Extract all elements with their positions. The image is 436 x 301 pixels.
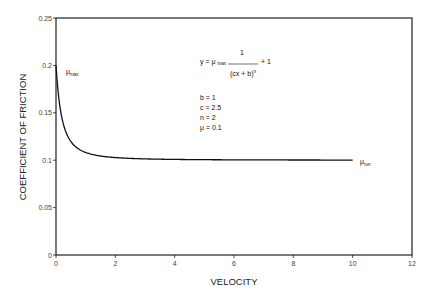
x-axis-label: VELOCITY: [211, 276, 259, 287]
x-tick-label: 10: [349, 260, 357, 267]
formula-denominator: (cx + b)n: [230, 69, 257, 78]
formula-numerator: 1: [240, 49, 244, 56]
y-tick-label: 0.25: [38, 15, 52, 22]
formula-plus-one: + 1: [261, 58, 271, 65]
param-c: c = 2.5: [200, 104, 221, 111]
axes: [56, 18, 412, 255]
formula: 1 y = μmax + 1 (cx + b)n: [200, 49, 271, 78]
x-tick-label: 8: [291, 260, 295, 267]
y-tick-label: 0.05: [38, 204, 52, 211]
y-tick-label: 0.2: [42, 62, 52, 69]
x-tick-label: 6: [232, 260, 236, 267]
y-tick-label: 0: [48, 252, 52, 259]
x-tick-label: 12: [408, 260, 416, 267]
param-n: n = 2: [200, 114, 216, 121]
x-tick-label: 2: [113, 260, 117, 267]
friction-chart: 024681012 00.050.10.150.20.25 VELOCITY C…: [0, 0, 436, 301]
series-line: [56, 65, 353, 160]
y-ticks: 00.050.10.150.20.25: [38, 15, 56, 259]
y-tick-label: 0.1: [42, 157, 52, 164]
x-tick-label: 4: [173, 260, 177, 267]
param-mu: μ = 0.1: [200, 124, 222, 132]
plot-frame: [56, 18, 412, 255]
parameter-list: b = 1 c = 2.5 n = 2 μ = 0.1: [200, 94, 222, 132]
param-b: b = 1: [200, 94, 216, 101]
y-axis-label: COEFFICIENT OF FRICTION: [17, 74, 28, 201]
formula-lhs: y = μmax: [200, 58, 227, 66]
x-ticks: 024681012: [54, 255, 416, 267]
y-tick-label: 0.15: [38, 109, 52, 116]
mu-run-label: μrun: [360, 158, 371, 167]
mu-max-label: μmax: [66, 68, 79, 77]
x-tick-label: 0: [54, 260, 58, 267]
